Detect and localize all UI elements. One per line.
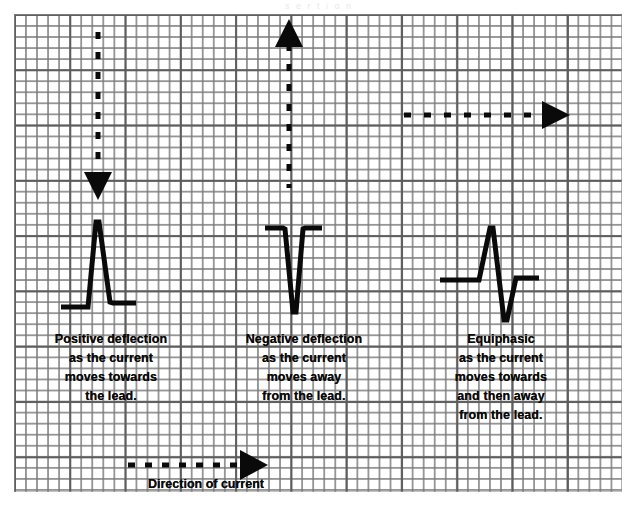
caption-line: as the current — [408, 349, 594, 368]
caption-line: Equiphasic — [408, 330, 594, 349]
up-arrow — [275, 19, 303, 188]
panel-equiphasic — [404, 101, 570, 320]
ecg-deflection-diagram: s e r t i o n — [0, 0, 638, 510]
caption-line: moves towards — [22, 368, 200, 387]
caption-line: as the current — [214, 349, 394, 368]
caption-positive-deflection: Positive deflection as the current moves… — [22, 330, 200, 406]
caption-line: and then away — [408, 387, 594, 406]
panel-positive — [61, 32, 136, 307]
direction-of-current-arrow — [128, 450, 268, 480]
caption-line: moves towards — [408, 368, 594, 387]
caption-line: moves away — [214, 368, 394, 387]
positive-deflection-waveform — [61, 222, 136, 307]
caption-line: from the lead. — [214, 387, 394, 406]
caption-line: the lead. — [22, 387, 200, 406]
caption-line: as the current — [22, 349, 200, 368]
right-arrow — [404, 101, 570, 129]
equiphasic-waveform — [440, 228, 539, 320]
down-arrow — [84, 32, 112, 200]
caption-line: Positive deflection — [22, 330, 200, 349]
caption-line: from the lead. — [408, 406, 594, 425]
negative-deflection-waveform — [265, 228, 322, 312]
caption-line: Negative deflection — [214, 330, 394, 349]
caption-equiphasic: Equiphasic as the current moves towards … — [408, 330, 594, 425]
caption-negative-deflection: Negative deflection as the current moves… — [214, 330, 394, 406]
panel-negative — [265, 19, 322, 312]
direction-of-current-label: Direction of current — [116, 477, 296, 492]
diagram-overlay — [0, 0, 638, 510]
